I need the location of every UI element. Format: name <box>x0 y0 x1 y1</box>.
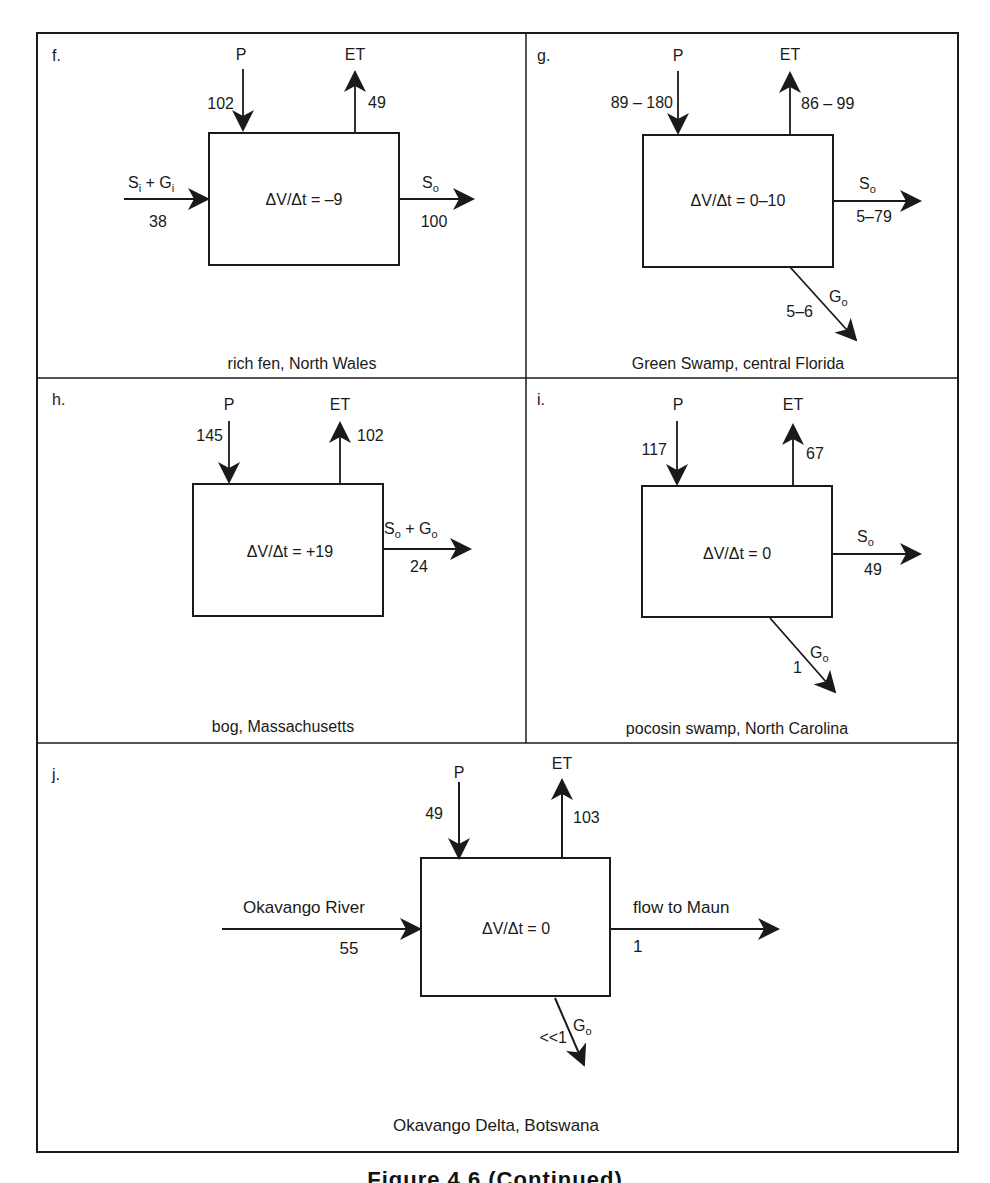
panel-id: g. <box>537 47 550 64</box>
groundwater-label: Go <box>810 644 829 664</box>
outflow-value: 24 <box>410 558 428 575</box>
panel-id: h. <box>52 391 65 408</box>
location-label: Okavango Delta, Botswana <box>393 1116 600 1135</box>
panel-g: g. P 89 – 180 ET 86 – 99 ΔV/Δt = 0–10 So… <box>537 46 920 372</box>
inflow-value: 38 <box>149 213 167 230</box>
precipitation-value: 89 – 180 <box>611 94 673 111</box>
outflow-value: 49 <box>864 561 882 578</box>
evapotranspiration-value: 67 <box>806 445 824 462</box>
groundwater-value: 5–6 <box>786 303 813 320</box>
precipitation-value: 145 <box>196 427 223 444</box>
evapotranspiration-label: ET <box>780 46 801 63</box>
panel-id: f. <box>52 47 61 64</box>
storage-change: ΔV/Δt = 0–10 <box>691 192 786 209</box>
groundwater-label: Go <box>829 288 848 308</box>
precipitation-value: 49 <box>425 805 443 822</box>
figure-caption: Figure 4.6 (Continued) <box>0 1167 990 1183</box>
storage-change: ΔV/Δt = 0 <box>703 545 771 562</box>
storage-change: ΔV/Δt = –9 <box>266 191 343 208</box>
location-label: pocosin swamp, North Carolina <box>626 720 848 737</box>
evapotranspiration-value: 102 <box>357 427 384 444</box>
evapotranspiration-value: 49 <box>368 94 386 111</box>
location-label: Green Swamp, central Florida <box>632 355 845 372</box>
groundwater-value: 1 <box>793 659 802 676</box>
outer-border <box>37 33 958 1152</box>
wetland-water-budget-figure: f. P 102 ET 49 ΔV/Δt = –9 Si + Gi 38 So … <box>0 0 990 1183</box>
groundwater-label: Go <box>573 1017 592 1037</box>
panel-f: f. P 102 ET 49 ΔV/Δt = –9 Si + Gi 38 So … <box>52 46 473 372</box>
panel-id: i. <box>537 391 545 408</box>
frame <box>37 33 958 1152</box>
outflow-label: So <box>422 174 439 194</box>
outflow-label: So <box>859 175 876 195</box>
inflow-label: Si + Gi <box>128 174 174 194</box>
evapotranspiration-label: ET <box>783 396 804 413</box>
storage-change: ΔV/Δt = +19 <box>247 543 333 560</box>
outflow-value: 1 <box>633 937 642 956</box>
outflow-label: So + Go <box>384 520 438 540</box>
inflow-label: Okavango River <box>243 898 365 917</box>
outflow-label: So <box>857 528 874 548</box>
groundwater-value: <<1 <box>539 1029 567 1046</box>
location-label: rich fen, North Wales <box>228 355 377 372</box>
location-label: bog, Massachusetts <box>212 718 354 735</box>
evapotranspiration-label: ET <box>552 755 573 772</box>
precipitation-value: 102 <box>207 95 234 112</box>
evapotranspiration-label: ET <box>330 396 351 413</box>
outflow-value: 100 <box>421 213 448 230</box>
precipitation-label: P <box>673 396 684 413</box>
precipitation-value: 117 <box>641 441 667 458</box>
outflow-value: 5–79 <box>856 208 892 225</box>
storage-change: ΔV/Δt = 0 <box>482 920 550 937</box>
panel-i: i. P 117 ET 67 ΔV/Δt = 0 So 49 Go 1 poco… <box>537 391 920 737</box>
precipitation-label: P <box>236 46 247 63</box>
panel-j: j. P 49 ET 103 ΔV/Δt = 0 Okavango River … <box>51 755 778 1135</box>
evapotranspiration-label: ET <box>345 46 366 63</box>
precipitation-label: P <box>224 396 235 413</box>
inflow-value: 55 <box>340 939 359 958</box>
evapotranspiration-value: 86 – 99 <box>801 95 854 112</box>
panel-id: j. <box>51 766 60 783</box>
evapotranspiration-value: 103 <box>573 809 600 826</box>
precipitation-label: P <box>673 47 684 64</box>
precipitation-label: P <box>454 764 465 781</box>
outflow-label: flow to Maun <box>633 898 729 917</box>
panel-h: h. P 145 ET 102 ΔV/Δt = +19 So + Go 24 b… <box>52 391 470 735</box>
